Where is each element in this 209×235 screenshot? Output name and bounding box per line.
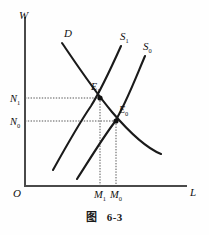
supply-curve-s0 [77, 56, 145, 179]
supply-curve-s1-label: S1 [120, 30, 129, 44]
equilibrium-point-e0 [113, 118, 118, 123]
equilibrium-label-e0: E0 [118, 104, 128, 117]
equilibrium-point-e1 [97, 95, 102, 100]
y-axis-label: W [19, 9, 29, 21]
figure-6-3: W L O D S1 S0 E1 E0 N1 N0 M1 M0 图6-3 [0, 0, 209, 235]
x-tick-label-m0: M0 [109, 189, 122, 202]
y-tick-label-n0: N0 [9, 116, 20, 129]
supply-demand-chart: W L O D S1 S0 E1 E0 N1 N0 M1 M0 [0, 0, 209, 235]
demand-curve-label: D [63, 27, 72, 39]
y-tick-label-n1: N1 [9, 93, 20, 106]
demand-curve [62, 43, 161, 154]
origin-label: O [13, 187, 21, 199]
equilibrium-label-e1: E1 [90, 81, 100, 94]
supply-curve-s0-label: S0 [143, 40, 152, 54]
figure-caption: 图6-3 [0, 208, 209, 224]
x-tick-label-m1: M1 [93, 189, 106, 202]
supply-curve-s1 [53, 46, 121, 170]
x-axis-label: L [189, 186, 196, 198]
figure-caption-word: 图 [86, 208, 98, 224]
figure-caption-number: 6-3 [107, 211, 123, 223]
